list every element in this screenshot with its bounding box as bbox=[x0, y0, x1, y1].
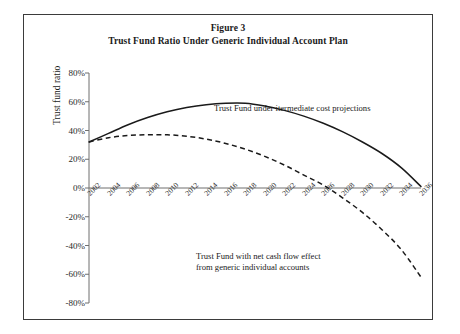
y-tick-label: 60% bbox=[69, 97, 86, 106]
figure-frame: Figure 3 Trust Fund Ratio Under Generic … bbox=[23, 14, 433, 320]
y-tick-label: -40% bbox=[66, 241, 86, 250]
y-tick-label: 20% bbox=[69, 155, 86, 164]
annotation-dashed-line2: from generic individual accounts bbox=[196, 262, 321, 273]
y-axis-title: Trust fund ratio bbox=[52, 66, 62, 125]
annotation-dashed-series: Trust Fund with net cash flow effect fro… bbox=[196, 251, 321, 273]
y-tick-label: 40% bbox=[69, 126, 86, 135]
annotation-solid-series: Trust Fund under itermediate cost projec… bbox=[214, 103, 371, 114]
series-line-solid bbox=[89, 103, 421, 187]
y-tick-label: 0% bbox=[73, 184, 85, 193]
y-tick-label: 80% bbox=[69, 69, 86, 78]
figure-title-line2: Trust Fund Ratio Under Generic Individua… bbox=[24, 35, 432, 48]
figure-title: Figure 3 Trust Fund Ratio Under Generic … bbox=[24, 22, 432, 47]
figure-title-line1: Figure 3 bbox=[24, 22, 432, 35]
y-tick-label: -20% bbox=[66, 212, 86, 221]
y-tick-label: -80% bbox=[66, 299, 86, 308]
annotation-dashed-line1: Trust Fund with net cash flow effect bbox=[196, 251, 321, 262]
y-tick-label: -60% bbox=[66, 270, 86, 279]
